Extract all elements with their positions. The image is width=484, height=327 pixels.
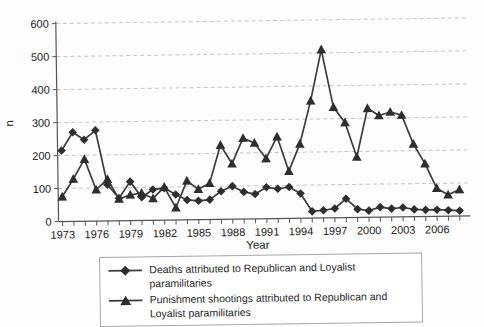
y-gridline [57,84,469,90]
x-tick-label: 1976 [84,228,109,240]
punishment-shootings-data-point-marker [455,184,465,193]
punishment-shootings-data-point-marker [193,184,203,193]
deaths-data-point-marker [273,184,282,193]
deaths-data-point-marker [308,207,317,216]
x-tick-label: 1973 [50,228,75,240]
x-tick-label: 1979 [119,227,144,239]
y-axis-label: n [3,120,15,127]
punishment-shootings-data-point-marker [284,166,294,175]
deaths-data-point-marker [251,190,260,199]
y-gridline [57,117,469,123]
legend-item-punishment-shootings: Punishment shootings attributed to Repub… [109,289,414,321]
deaths-data-point-marker [455,206,464,215]
punishment-shootings-data-point-marker [329,102,339,111]
punishment-shootings-data-point-marker [432,183,442,192]
x-tick-label: 2006 [425,223,450,235]
chart-root: 0100200300400500600197319761979198219851… [0,0,484,327]
y-tick-label: 0 [45,216,51,228]
deaths-data-point-marker [183,196,192,205]
deaths-data-point-marker [421,205,430,214]
x-tick-label: 1988 [221,226,246,238]
punishment-shootings-data-point-marker [216,140,226,149]
deaths-data-point-marker [376,203,385,212]
triangle-marker-icon [109,294,143,306]
punishment-shootings-data-point-marker [68,174,78,183]
punishment-shootings-data-point-marker [408,139,418,148]
x-tick-label: 2000 [357,224,382,236]
x-tick-label: 1985 [187,226,212,238]
punishment-shootings-data-point-marker [205,178,215,187]
x-tick-label: 2003 [391,224,416,236]
deaths-data-point-marker [365,206,374,215]
punishment-shootings-data-point-marker [103,174,113,183]
y-gridline [56,18,468,24]
punishment-shootings-data-point-marker [316,45,326,54]
deaths-data-point-marker [433,205,442,214]
legend-label-deaths: Deaths attributed to Republican and Loya… [149,260,413,291]
x-axis [59,216,471,222]
x-tick-label: 1994 [289,225,314,237]
chart-canvas: 0100200300400500600197319761979198219851… [0,0,484,253]
y-tick-label: 200 [32,150,51,162]
punishment-shootings-series-line [60,48,459,210]
deaths-data-point-marker [387,204,396,213]
deaths-data-point-marker [285,183,294,192]
legend-label-punishment-shootings: Punishment shootings attributed to Repub… [150,289,414,320]
y-tick-label: 600 [30,18,49,30]
punishment-shootings-data-point-marker [420,159,430,168]
diamond-marker-icon [108,264,142,276]
deaths-data-point-marker [68,128,77,137]
punishment-shootings-data-point-marker [306,96,316,105]
deaths-data-point-marker [228,182,237,191]
deaths-data-point-marker [239,188,248,197]
legend-box: Deaths attributed to Republican and Loya… [99,252,423,327]
deaths-data-point-marker [444,206,453,215]
punishment-shootings-data-point-marker [227,159,237,168]
y-tick-label: 100 [33,183,52,195]
deaths-data-point-marker [296,189,305,198]
deaths-data-point-marker [57,146,66,155]
x-tick-label: 1997 [323,225,348,237]
deaths-data-point-marker [194,196,203,205]
y-tick-label: 500 [31,51,50,63]
deaths-data-point-marker [410,205,419,214]
punishment-shootings-data-point-marker [352,152,362,161]
punishment-shootings-data-point-marker [272,132,282,141]
punishment-shootings-data-point-marker [182,176,192,185]
y-axis [56,22,59,222]
punishment-shootings-data-point-marker [363,103,373,112]
deaths-data-point-marker [171,190,180,199]
deaths-data-point-marker [399,203,408,212]
deaths-data-point-marker [262,183,271,192]
x-axis-label: Year [246,239,270,251]
y-tick-label: 300 [32,117,51,129]
y-tick-label: 400 [31,84,50,96]
x-tick-label: 1982 [153,227,178,239]
punishment-shootings-data-point-marker [171,203,181,212]
y-gridline [56,51,468,57]
punishment-shootings-data-point-marker [295,139,305,148]
legend-item-deaths: Deaths attributed to Republican and Loya… [108,260,413,292]
punishment-shootings-data-point-marker [238,133,248,142]
punishment-shootings-data-point-marker [385,107,395,116]
punishment-shootings-data-point-marker [159,182,169,191]
x-tick-label: 1991 [255,225,280,237]
deaths-data-point-marker [319,206,328,215]
punishment-shootings-data-point-marker [443,190,453,199]
